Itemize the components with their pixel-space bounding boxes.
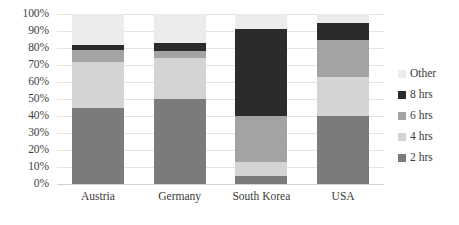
bar-segment-6-hrs	[317, 40, 369, 77]
y-axis-tick-label: 20%	[28, 144, 49, 156]
bar-south-korea	[235, 14, 287, 184]
bar-germany	[154, 14, 206, 184]
y-axis-tick-label: 50%	[28, 93, 49, 105]
legend-swatch-icon	[398, 154, 406, 162]
legend-label: Other	[410, 68, 436, 80]
legend-swatch-icon	[398, 133, 406, 141]
y-axis-tick-label: 80%	[28, 42, 49, 54]
y-axis-tick-label: 40%	[28, 110, 49, 122]
plot-area	[57, 14, 384, 184]
bar-segment-4-hrs	[72, 62, 124, 108]
bar-segment-4-hrs	[154, 58, 206, 99]
bar-segment-2-hrs	[154, 99, 206, 184]
y-axis: 0%10%20%30%40%50%60%70%80%90%100%	[0, 0, 57, 225]
x-axis-tick-label: Austria	[57, 190, 139, 203]
legend-label: 8 hrs	[410, 89, 433, 101]
chart-legend: Other8 hrs6 hrs4 hrs2 hrs	[398, 63, 459, 168]
legend-item-8-hrs[interactable]: 8 hrs	[398, 84, 459, 105]
x-axis-tick-label: USA	[302, 190, 384, 203]
bar-segment-Other	[72, 14, 124, 45]
bar-segment-6-hrs	[154, 51, 206, 58]
bar-segment-2-hrs	[235, 176, 287, 185]
legend-item-2-hrs[interactable]: 2 hrs	[398, 147, 459, 168]
bar-segment-8-hrs	[235, 29, 287, 116]
x-axis-tick-label: South Korea	[221, 190, 303, 203]
y-axis-tick-label: 0%	[34, 178, 49, 190]
y-axis-tick-label: 70%	[28, 59, 49, 71]
legend-swatch-icon	[398, 91, 406, 99]
y-axis-tick-label: 10%	[28, 161, 49, 173]
y-axis-tick-label: 60%	[28, 76, 49, 88]
x-axis-tick-label: Germany	[139, 190, 221, 203]
legend-label: 4 hrs	[410, 131, 433, 143]
bar-segment-Other	[235, 14, 287, 29]
legend-label: 6 hrs	[410, 110, 433, 122]
bar-segment-8-hrs	[154, 43, 206, 52]
bar-segment-8-hrs	[72, 45, 124, 50]
legend-item-4-hrs[interactable]: 4 hrs	[398, 126, 459, 147]
gridline	[57, 184, 384, 185]
bar-segment-4-hrs	[235, 162, 287, 176]
bar-segment-8-hrs	[317, 23, 369, 40]
y-axis-tick-label: 100%	[23, 8, 49, 20]
y-axis-tick-label: 30%	[28, 127, 49, 139]
bar-segment-Other	[154, 14, 206, 43]
bar-usa	[317, 14, 369, 184]
bar-segment-Other	[317, 14, 369, 23]
legend-label: 2 hrs	[410, 152, 433, 164]
x-axis: AustriaGermanySouth KoreaUSA	[57, 186, 384, 212]
bar-austria	[72, 14, 124, 184]
bar-segment-2-hrs	[72, 108, 124, 185]
legend-swatch-icon	[398, 70, 406, 78]
bar-segment-2-hrs	[317, 116, 369, 184]
stacked-bar-chart: 0%10%20%30%40%50%60%70%80%90%100% Austri…	[0, 0, 459, 225]
legend-item-Other[interactable]: Other	[398, 63, 459, 84]
bar-segment-6-hrs	[72, 50, 124, 62]
y-axis-tick-label: 90%	[28, 25, 49, 37]
legend-swatch-icon	[398, 112, 406, 120]
legend-item-6-hrs[interactable]: 6 hrs	[398, 105, 459, 126]
bar-segment-6-hrs	[235, 116, 287, 162]
bar-segment-4-hrs	[317, 77, 369, 116]
